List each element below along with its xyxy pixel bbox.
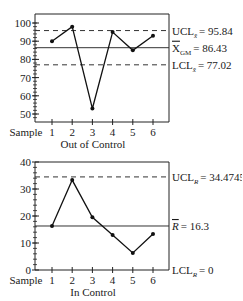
y-tick-label: 100 xyxy=(15,17,32,29)
y-tick-label: 80 xyxy=(20,53,32,65)
x-tick-label: 5 xyxy=(130,126,136,138)
x-prefix-label: Sample xyxy=(10,126,43,138)
x-tick-label: 3 xyxy=(90,126,96,138)
reference-label-main: R xyxy=(171,220,179,232)
x-tick-label: 4 xyxy=(110,126,116,138)
x-tick-label: 2 xyxy=(69,274,75,286)
data-point xyxy=(90,215,94,219)
y-tick-label: 40 xyxy=(20,156,32,168)
data-point xyxy=(90,107,94,111)
x-tick-label: 1 xyxy=(49,126,55,138)
x-axis-label: In Control xyxy=(70,286,116,298)
reference-label-main: UCL xyxy=(172,171,194,183)
y-tick-label: 90 xyxy=(20,35,32,47)
data-point xyxy=(70,178,74,182)
data-point xyxy=(50,224,54,228)
reference-label-subscript: x̄ xyxy=(192,66,197,74)
reference-label-value: = 16.3 xyxy=(181,220,210,232)
data-point xyxy=(70,25,74,29)
reference-label-lcl: LCLx̄= 77.02 xyxy=(172,59,232,74)
data-series-line xyxy=(52,27,153,109)
data-point xyxy=(131,48,135,52)
data-series-line xyxy=(52,180,153,253)
data-point xyxy=(151,34,155,38)
data-point xyxy=(50,39,54,43)
y-tick-label: 60 xyxy=(20,90,32,102)
x-axis-label: Out of Control xyxy=(61,138,126,150)
reference-label-subscript: R xyxy=(193,178,199,186)
xbar-chart: 5060708090100123456SampleOut of ControlU… xyxy=(10,14,234,150)
control-charts: 5060708090100123456SampleOut of ControlU… xyxy=(0,0,242,301)
reference-label-value: = 86.43 xyxy=(193,42,227,54)
reference-label-value: = 95.84 xyxy=(199,25,233,37)
data-point xyxy=(111,30,115,34)
reference-label-value: = 0 xyxy=(199,264,214,276)
x-tick-label: 3 xyxy=(90,274,96,286)
reference-label-subscript: R xyxy=(192,271,198,279)
reference-label-main: X xyxy=(172,42,180,54)
x-tick-label: 4 xyxy=(110,274,116,286)
data-point xyxy=(111,233,115,237)
x-tick-label: 6 xyxy=(150,274,156,286)
data-point xyxy=(131,251,135,255)
reference-label-value: = 77.02 xyxy=(198,59,232,71)
reference-label-center: XGM= 86.43 xyxy=(172,42,227,57)
data-point xyxy=(151,232,155,236)
y-tick-label: 10 xyxy=(20,237,32,249)
reference-label-ucl: UCLR= 34.4745 xyxy=(172,171,242,186)
reference-label-subscript: x̄ xyxy=(193,32,198,40)
x-tick-label: 2 xyxy=(69,126,75,138)
x-tick-label: 6 xyxy=(150,126,156,138)
range-chart: 010203040123456SampleIn ControlUCLR= 34.… xyxy=(10,156,243,298)
reference-label-value: = 34.4745 xyxy=(200,171,242,183)
y-tick-label: 20 xyxy=(20,210,32,222)
y-tick-label: 70 xyxy=(20,72,32,84)
x-tick-label: 5 xyxy=(130,274,136,286)
x-tick-label: 1 xyxy=(49,274,55,286)
reference-label-lcl: LCLR= 0 xyxy=(172,264,214,279)
reference-label-main: LCL xyxy=(172,264,193,276)
reference-label-ucl: UCLx̄= 95.84 xyxy=(172,25,233,40)
reference-label-main: UCL xyxy=(172,25,194,37)
reference-label-subscript: GM xyxy=(180,49,192,57)
x-prefix-label: Sample xyxy=(10,274,43,286)
reference-label-main: LCL xyxy=(172,59,193,71)
y-tick-label: 50 xyxy=(20,108,32,120)
reference-label-center: R= 16.3 xyxy=(171,220,209,232)
y-tick-label: 30 xyxy=(20,183,32,195)
